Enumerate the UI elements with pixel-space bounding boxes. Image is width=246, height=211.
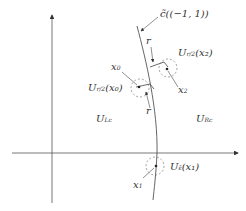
x0-leader: [122, 72, 137, 85]
point-x1: [155, 165, 158, 168]
diagram-canvas: c̃((−1, 1)) r r Ur/2(x₂) x2 x0 Ur/2(x₀) …: [0, 0, 246, 211]
r-arrow-top: [151, 47, 153, 62]
x2-label: x2: [178, 85, 187, 95]
r-label-top: r: [146, 36, 151, 46]
ball-x2: [159, 59, 177, 77]
r-label-bottom: r: [146, 106, 151, 116]
x0-label: x0: [111, 62, 120, 72]
UR-label: URc: [196, 114, 212, 124]
U-x2-label: Ur/2(x₂): [178, 48, 213, 58]
U-x1-label: Uε̃(x₁): [170, 162, 199, 172]
diagram-drawing: [0, 0, 246, 211]
point-x0: [138, 86, 141, 89]
UL-label: ULc: [96, 114, 112, 124]
x1-label: x1: [133, 180, 142, 190]
point-x2: [166, 68, 169, 71]
c-label-pointer: [141, 17, 158, 31]
U-x0-label: Ur/2(x₀): [88, 83, 123, 93]
x1-leader: [143, 168, 154, 178]
x2-leader: [168, 71, 178, 87]
curve-label: c̃((−1, 1)): [160, 9, 209, 19]
